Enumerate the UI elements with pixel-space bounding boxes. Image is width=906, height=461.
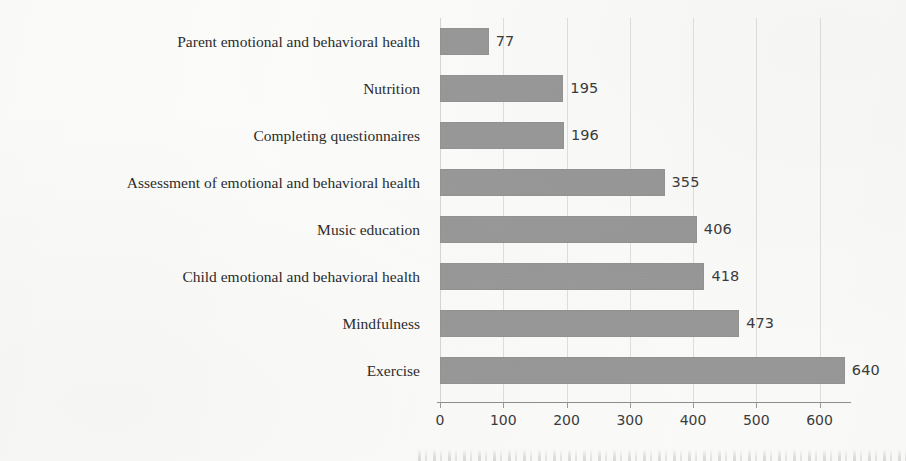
bar-row: 77 <box>440 18 848 65</box>
x-tick-200 <box>567 402 568 408</box>
x-axis-line <box>437 402 851 403</box>
bar-value-label: 77 <box>496 28 515 55</box>
x-tick-label: 100 <box>490 412 517 428</box>
bar-value-label: 640 <box>852 357 880 384</box>
category-label: Exercise <box>367 347 430 394</box>
bar-row: 195 <box>440 65 848 112</box>
bar-value-label: 355 <box>672 169 700 196</box>
category-axis-labels: Parent emotional and behavioral healthNu… <box>0 18 430 402</box>
x-tick-label: 400 <box>680 412 707 428</box>
x-tick-400 <box>693 402 694 408</box>
bar <box>440 75 563 102</box>
bar-row: 473 <box>440 300 848 347</box>
category-label: Nutrition <box>363 65 430 112</box>
x-tick-label: 300 <box>616 412 643 428</box>
x-tick-label: 600 <box>806 412 833 428</box>
bar-series: 77195196355406418473640 <box>440 18 848 402</box>
bar <box>440 28 489 55</box>
bar-value-label: 473 <box>746 310 774 337</box>
bar-value-label: 196 <box>571 122 599 149</box>
bar-row: 418 <box>440 253 848 300</box>
x-tick-600 <box>820 402 821 408</box>
x-tick-0 <box>440 402 441 408</box>
plot-area: 77195196355406418473640 <box>440 18 848 402</box>
bar <box>440 216 697 243</box>
page-edge-artifact <box>418 449 906 461</box>
bar <box>440 263 704 290</box>
category-label: Assessment of emotional and behavioral h… <box>127 159 430 206</box>
x-tick-label: 0 <box>436 412 445 428</box>
x-tick-label: 200 <box>553 412 580 428</box>
bar-row: 406 <box>440 206 848 253</box>
category-label: Parent emotional and behavioral health <box>177 18 430 65</box>
category-label: Child emotional and behavioral health <box>182 253 430 300</box>
bar-value-label: 418 <box>711 263 739 290</box>
bar <box>440 357 845 384</box>
bar-value-label: 406 <box>704 216 732 243</box>
bar-row: 640 <box>440 347 848 394</box>
bar-value-label: 195 <box>570 75 598 102</box>
x-tick-label: 500 <box>743 412 770 428</box>
x-tick-500 <box>756 402 757 408</box>
bar <box>440 310 739 337</box>
category-label: Completing questionnaires <box>253 112 430 159</box>
bar-row: 355 <box>440 159 848 206</box>
x-tick-100 <box>503 402 504 408</box>
bar-row: 196 <box>440 112 848 159</box>
chart-figure: Parent emotional and behavioral healthNu… <box>0 0 906 461</box>
category-label: Mindfulness <box>343 300 431 347</box>
x-tick-300 <box>630 402 631 408</box>
bar <box>440 122 564 149</box>
bar <box>440 169 665 196</box>
category-label: Music education <box>317 206 430 253</box>
